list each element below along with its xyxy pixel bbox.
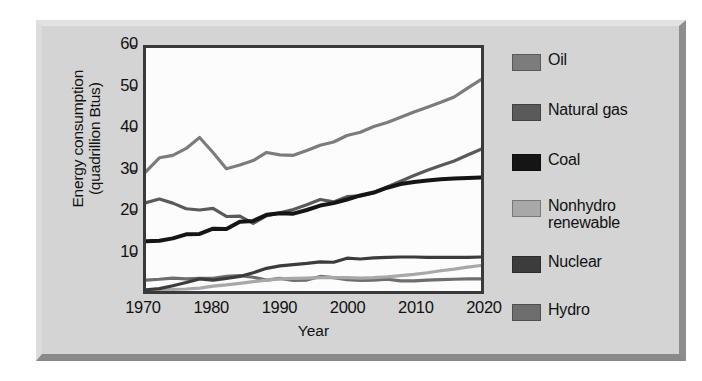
legend-label: Nonhydro renewable bbox=[548, 198, 620, 231]
legend-item-oil: Oil bbox=[512, 52, 567, 71]
legend-swatch bbox=[512, 256, 541, 273]
legend-swatch bbox=[512, 54, 541, 71]
plot-area bbox=[143, 45, 484, 294]
series-line-oil bbox=[146, 80, 481, 172]
x-axis-title: Year bbox=[143, 322, 484, 340]
y-axis-tick-labels: 102030405060 bbox=[90, 45, 138, 294]
legend-item-natural-gas: Natural gas bbox=[512, 102, 628, 121]
y-axis-title-line1: Energy consumption bbox=[70, 14, 87, 264]
plot-lines bbox=[146, 48, 481, 291]
y-tick-label: 40 bbox=[94, 117, 138, 136]
x-tick-label: 1970 bbox=[113, 298, 173, 317]
legend-swatch bbox=[512, 200, 541, 217]
x-axis-tick-labels: 197019801990200020102020 bbox=[143, 298, 484, 322]
legend-item-nonhydro-renewable: Nonhydro renewable bbox=[512, 198, 620, 231]
y-tick-label: 20 bbox=[94, 200, 138, 219]
x-tick-label: 1980 bbox=[181, 298, 241, 317]
y-tick-label: 10 bbox=[94, 242, 138, 261]
figure-frame: Energy consumption (quadrillion Btus) 10… bbox=[36, 20, 686, 361]
legend-item-coal: Coal bbox=[512, 152, 580, 171]
legend-label: Oil bbox=[548, 52, 567, 69]
x-tick-label: 2020 bbox=[454, 298, 514, 317]
legend-swatch bbox=[512, 304, 541, 321]
legend-label: Nuclear bbox=[548, 254, 602, 271]
figure-inner-panel: Energy consumption (quadrillion Btus) 10… bbox=[42, 26, 679, 354]
legend-item-nuclear: Nuclear bbox=[512, 254, 602, 273]
y-tick-label: 60 bbox=[94, 34, 138, 53]
legend-label: Natural gas bbox=[548, 102, 628, 119]
line-chart: Energy consumption (quadrillion Btus) 10… bbox=[42, 26, 512, 354]
chart-legend: OilNatural gasCoalNonhydro renewableNucl… bbox=[512, 40, 672, 340]
series-line-natural-gas bbox=[146, 149, 481, 223]
y-tick-label: 50 bbox=[94, 76, 138, 95]
legend-swatch bbox=[512, 154, 541, 171]
x-tick-label: 1990 bbox=[249, 298, 309, 317]
x-tick-label: 2000 bbox=[318, 298, 378, 317]
legend-label: Coal bbox=[548, 152, 580, 169]
legend-label: Hydro bbox=[548, 302, 590, 319]
x-tick-label: 2010 bbox=[386, 298, 446, 317]
legend-item-hydro: Hydro bbox=[512, 302, 590, 321]
legend-swatch bbox=[512, 104, 541, 121]
y-tick-label: 30 bbox=[94, 159, 138, 178]
